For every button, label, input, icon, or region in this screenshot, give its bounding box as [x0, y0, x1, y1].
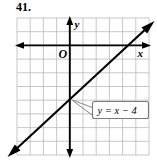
graph-svg: O y x y = x − 4 [0, 15, 157, 164]
coordinate-graph: O y x y = x − 4 [0, 15, 157, 164]
x-axis-label: x [137, 47, 144, 59]
y-axis-label: y [73, 18, 80, 30]
problem-number: 41. [16, 0, 31, 14]
origin-label: O [59, 47, 68, 61]
equation-label: y = x − 4 [97, 105, 138, 116]
exercise-figure: 41. [0, 0, 157, 164]
equation-callout: y = x − 4 [93, 102, 149, 119]
